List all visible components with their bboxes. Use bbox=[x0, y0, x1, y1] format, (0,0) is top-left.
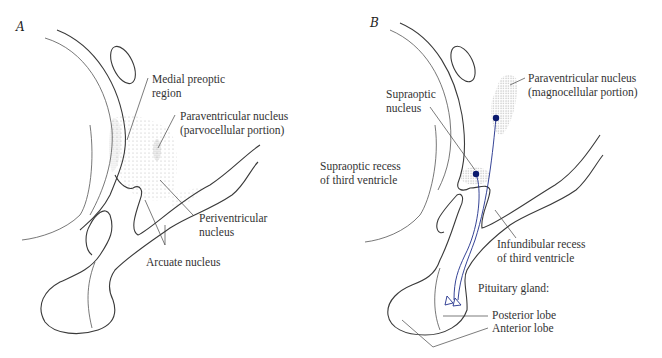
label-periventricular-nucleus: Periventricular nucleus bbox=[199, 212, 267, 239]
label-posterior-lobe: Posterior lobe bbox=[492, 309, 556, 323]
neuron-pvn-icon bbox=[493, 115, 499, 121]
axon-terminal-icon bbox=[445, 296, 453, 305]
neuron-supraoptic-icon bbox=[473, 171, 479, 177]
axon-paraventricular bbox=[458, 118, 496, 300]
label-paraventricular-nucleus-parvocellular: Paraventricular nucleus (parvocellular p… bbox=[180, 110, 288, 137]
label-medial-preoptic-region: Medial preoptic region bbox=[152, 73, 225, 100]
panel-b: B Supraoptic nucleus Paraventricular nuc… bbox=[330, 0, 662, 358]
label-pituitary-gland: Pituitary gland: bbox=[478, 282, 549, 296]
panel-letter-a: A bbox=[16, 20, 25, 34]
pvn-parvo-stipple bbox=[153, 139, 161, 161]
hypothalamus-drawing-a bbox=[0, 0, 330, 358]
label-arcuate-nucleus: Arcuate nucleus bbox=[146, 256, 220, 270]
panel-a: A Medial preoptic region Paraventricular… bbox=[0, 0, 330, 358]
leader-supraoptic-nucleus bbox=[430, 107, 475, 170]
label-paraventricular-nucleus-magnocellular: Paraventricular nucleus (magnocellular p… bbox=[528, 72, 638, 99]
label-supraoptic-recess: Supraoptic recess of third ventricle bbox=[320, 160, 401, 187]
label-infundibular-recess: Infundibular recess of third ventricle bbox=[497, 238, 585, 265]
label-supraoptic-nucleus: Supraoptic nucleus bbox=[386, 88, 436, 115]
label-anterior-lobe: Anterior lobe bbox=[492, 322, 554, 336]
leader-anterior-lobe bbox=[402, 320, 488, 347]
panel-letter-b: B bbox=[370, 16, 379, 30]
